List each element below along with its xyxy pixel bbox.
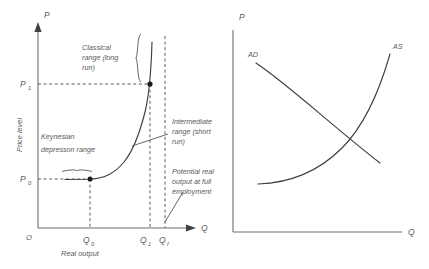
potential-output-leader — [165, 192, 183, 222]
tick-q1-base: Q — [140, 235, 147, 245]
figure-canvas: P Q O P 1 P 0 Q 0 Q 1 Q f — [0, 0, 429, 269]
potential-output-line1: Potential real — [172, 167, 214, 176]
classical-range-line1: Classical — [82, 43, 111, 52]
right-ad-curve — [256, 63, 380, 163]
keynesian-range-line2: depresson range — [41, 145, 95, 154]
right-y-axis-symbol: P — [239, 12, 245, 22]
intermediate-range-annotation: Intermediate range (short run) — [172, 117, 212, 146]
keynesian-range-brace — [62, 170, 92, 172]
tick-qf-sub: f — [167, 241, 170, 247]
tick-p0-sub: 0 — [28, 180, 32, 186]
left-y-axis-symbol: P — [44, 10, 50, 20]
classical-range-line3: run) — [82, 63, 95, 72]
as-curve-label: AS — [392, 42, 403, 51]
right-panel: P Q AD AS — [233, 12, 415, 237]
intermediate-range-line2: range (short — [172, 127, 212, 136]
left-x-axis-symbol: Q — [201, 223, 208, 233]
tick-qf: Q f — [159, 235, 170, 247]
tick-qf-base: Q — [159, 235, 166, 245]
intermediate-range-line1: Intermediate — [172, 117, 212, 126]
tick-q0-base: Q — [83, 235, 90, 245]
left-y-axis-arrowhead — [34, 22, 41, 32]
tick-p1: P 1 — [20, 79, 31, 91]
left-x-axis-arrowhead — [186, 224, 196, 231]
classical-range-line2: range (long — [82, 53, 118, 62]
intermediate-range-line3: run) — [172, 137, 185, 146]
left-as-curve — [65, 42, 152, 180]
tick-p0-base: P — [20, 174, 26, 184]
classical-range-brace — [136, 34, 141, 82]
potential-output-line2: output at full — [172, 177, 212, 186]
tick-p1-base: P — [20, 79, 26, 89]
tick-p1-sub: 1 — [28, 85, 31, 91]
left-x-axis-title: Real output — [61, 249, 100, 258]
keynesian-range-line1: Keynesian — [41, 132, 75, 141]
economics-diagram: P Q O P 1 P 0 Q 0 Q 1 Q f — [0, 0, 429, 269]
tick-p0: P 0 — [20, 174, 32, 186]
classical-range-annotation: Classical range (long run) — [82, 43, 118, 72]
keynesian-range-annotation: Keynesian depresson range — [41, 132, 95, 154]
point-q1-p1 — [147, 81, 152, 86]
left-panel: P Q O P 1 P 0 Q 0 Q 1 Q f — [15, 10, 214, 258]
right-as-curve — [258, 54, 390, 184]
left-y-axis-title: Price level — [15, 118, 24, 152]
tick-q1: Q 1 — [140, 235, 151, 247]
potential-output-annotation: Potential real output at full employment — [172, 167, 214, 196]
potential-output-line3: employment — [172, 187, 212, 196]
left-origin-label: O — [26, 233, 32, 242]
tick-q0-sub: 0 — [91, 241, 95, 247]
ad-curve-label: AD — [247, 50, 258, 59]
tick-q1-sub: 1 — [148, 241, 151, 247]
right-x-axis-symbol: Q — [408, 227, 415, 237]
tick-q0: Q 0 — [83, 235, 95, 247]
point-q0-p0 — [88, 177, 93, 182]
